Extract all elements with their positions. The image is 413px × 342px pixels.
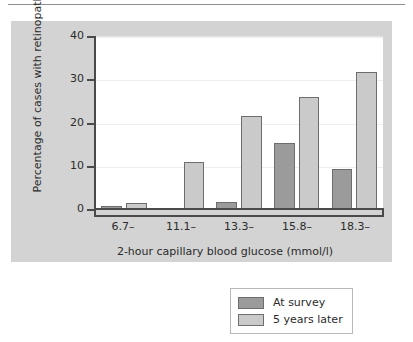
bar[interactable] <box>184 162 205 209</box>
y-axis-title: Percentage of cases with retinopathy <box>31 0 44 193</box>
bar[interactable] <box>356 72 377 209</box>
bars-layer <box>96 36 384 209</box>
bar[interactable] <box>241 116 262 209</box>
y-axis-tick <box>87 166 94 168</box>
x-axis-cap-left <box>94 209 96 217</box>
x-axis-tick-label: 13.3– <box>210 220 268 236</box>
legend-item[interactable]: At survey <box>238 294 343 311</box>
y-axis-tick-label: 10 <box>50 159 84 172</box>
y-axis-tick-labels: 010203040 <box>44 36 84 210</box>
header-rule <box>8 4 405 5</box>
bar-group <box>269 36 327 209</box>
bar[interactable] <box>274 143 295 209</box>
x-axis-baseline <box>94 208 384 210</box>
y-axis-tick <box>87 209 94 211</box>
x-axis-tick-label: 11.1– <box>152 220 210 236</box>
legend-swatch <box>238 297 264 309</box>
x-axis-tick-label: 15.8– <box>268 220 326 236</box>
y-axis-tick-label: 40 <box>50 29 84 42</box>
y-axis-tick <box>87 123 94 125</box>
y-axis-tick-label: 30 <box>50 72 84 85</box>
x-axis-cap-right <box>382 209 384 217</box>
bar[interactable] <box>299 97 320 209</box>
legend-label: At survey <box>273 296 325 309</box>
legend-item[interactable]: 5 years later <box>238 311 343 328</box>
x-axis-tick-label: 6.7– <box>94 220 152 236</box>
chart-legend: At survey5 years later <box>230 288 353 334</box>
bar-group <box>154 36 212 209</box>
bar-group <box>96 36 154 209</box>
x-axis-tick-labels: 6.7–11.1–13.3–15.8–18.3– <box>94 220 384 236</box>
legend-label: 5 years later <box>273 313 343 326</box>
bar-group <box>326 36 384 209</box>
legend-swatch <box>238 314 264 326</box>
x-axis-tick-label: 18.3– <box>326 220 384 236</box>
y-axis-tick <box>87 79 94 81</box>
y-axis-tick-label: 0 <box>50 202 84 215</box>
y-axis-tick-label: 20 <box>50 116 84 129</box>
x-axis-line <box>94 215 384 217</box>
y-axis-tick <box>87 36 94 38</box>
bar-group <box>211 36 269 209</box>
bar[interactable] <box>332 169 353 209</box>
x-axis-title: 2-hour capillary blood glucose (mmol/l) <box>60 245 390 258</box>
